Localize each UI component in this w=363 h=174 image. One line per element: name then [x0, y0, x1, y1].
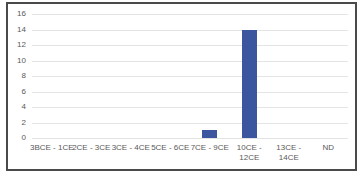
gridline: [32, 76, 348, 77]
gridline: [32, 107, 348, 108]
y-tick-label: 6: [22, 87, 26, 97]
gridline: [32, 123, 348, 124]
gridline: [32, 61, 348, 62]
chart-frame: 0246810121416 3BCE - 1CE2CE - 3CE3CE - 4…: [6, 2, 357, 171]
gridline: [32, 45, 348, 46]
bar-chart: 0246810121416 3BCE - 1CE2CE - 3CE3CE - 4…: [0, 0, 363, 174]
x-axis-labels: 3BCE - 1CE2CE - 3CE3CE - 4CE5CE - 6CE7CE…: [32, 143, 348, 167]
y-tick-label: 8: [22, 71, 26, 81]
bar-10CE - 12CE: [242, 30, 257, 139]
y-tick-label: 10: [17, 56, 26, 66]
y-tick-label: 4: [22, 102, 26, 112]
x-tick-label: ND: [300, 143, 356, 153]
gridline: [32, 138, 348, 139]
y-tick-label: 0: [22, 133, 26, 143]
plot-area: [32, 14, 348, 138]
gridline: [32, 30, 348, 31]
gridline: [32, 92, 348, 93]
bar-7CE - 9CE: [202, 130, 217, 138]
y-axis-labels: 0246810121416: [8, 14, 28, 138]
y-tick-label: 12: [17, 40, 26, 50]
y-tick-label: 14: [17, 25, 26, 35]
y-tick-label: 16: [17, 9, 26, 19]
gridline: [32, 14, 348, 15]
y-tick-label: 2: [22, 118, 26, 128]
